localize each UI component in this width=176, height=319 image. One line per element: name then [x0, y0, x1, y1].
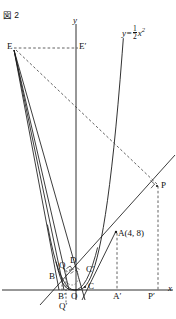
point-label-O: O: [71, 292, 78, 301]
point-label-B-prime: B′: [58, 292, 66, 301]
ray-e-to-b: [14, 50, 59, 290]
point-label-C: C: [88, 282, 94, 291]
parabola-curve: [56, 39, 123, 290]
x-axis-label: x: [168, 284, 172, 293]
figure-caption: 図 2: [3, 11, 19, 20]
point-label-P: P: [161, 181, 166, 190]
point-label-E-prime: E′: [79, 42, 86, 51]
point-label-A-prime: A′: [113, 292, 121, 301]
y-axis-label: y: [73, 16, 77, 25]
ray-e-to-q: [14, 50, 64, 290]
equation-equals: =: [126, 28, 132, 38]
equation-label: y=12x2: [122, 25, 145, 42]
point-label-B: B: [49, 272, 55, 281]
ray-e-to-d: [14, 50, 69, 290]
secant-line-ba: [40, 155, 175, 305]
point-dot-a: [115, 231, 117, 233]
equation-denominator: 2: [133, 33, 138, 41]
point-label-P-prime: P′: [148, 292, 155, 301]
point-label-E: E: [7, 42, 13, 51]
equation-exponent: 2: [142, 26, 145, 33]
point-label-D: D: [70, 256, 77, 265]
geometry-figure: 図 2 y x y=12x2 E E′ P A(4, 8) D Q C′ B C…: [0, 0, 176, 319]
tick-mark-2: [71, 272, 74, 274]
point-label-Q-prime: Q′: [59, 302, 67, 311]
point-label-A: A(4, 8): [118, 229, 144, 238]
dashed-eprime-to-p: [16, 50, 158, 185]
point-dot-c: [84, 286, 86, 288]
point-label-Q: Q: [59, 261, 66, 270]
point-dot-p: [156, 185, 158, 187]
point-label-C-prime: C′: [86, 265, 94, 274]
equation-fraction: 12: [133, 25, 138, 42]
tick-mark-4: [77, 268, 80, 270]
